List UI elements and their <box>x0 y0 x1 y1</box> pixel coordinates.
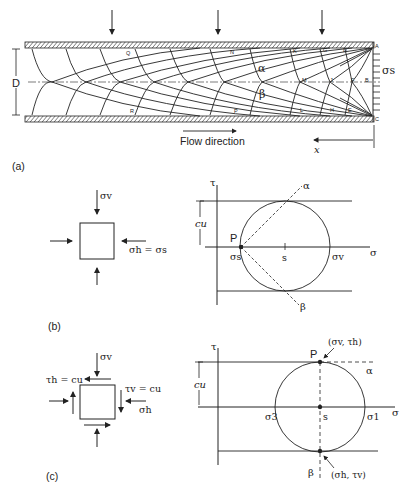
svg-text:M: M <box>302 77 307 83</box>
pole-coords-c: (σv, τh) <box>328 337 362 347</box>
svg-text:H: H <box>330 107 334 113</box>
panel-label-a: (a) <box>12 160 25 172</box>
stress-element-c <box>49 353 146 447</box>
svg-text:Q: Q <box>126 50 131 56</box>
node-labels: Q N K G D A M J F B R P L H E C <box>126 43 379 122</box>
tau-axis-b: τ <box>210 177 216 188</box>
pole-label-c: P <box>310 348 317 360</box>
tau-h-label-c: τh = cu <box>46 374 83 385</box>
tau-v-label-c: τv = cu <box>125 383 161 394</box>
sigma-s-label: σs <box>382 64 396 77</box>
pole-point-c <box>318 360 322 364</box>
center-label-c: s <box>323 411 328 422</box>
mohr-circle-c <box>195 348 395 478</box>
sigma-s-label-b: σs <box>230 251 241 262</box>
x-label: x <box>314 144 320 155</box>
svg-text:D: D <box>343 47 347 53</box>
svg-text:J: J <box>330 77 333 83</box>
alpha-label: α <box>258 62 266 75</box>
sigma-3-label-c: σ3 <box>265 411 278 422</box>
svg-text:C: C <box>375 116 379 122</box>
sigma-v-label-b: σv <box>100 190 112 201</box>
part-a-slip-line-field: D <box>11 10 396 172</box>
sigma-v-point-b: σv <box>332 251 344 262</box>
svg-text:P: P <box>234 108 238 114</box>
bottom-point-c <box>318 449 322 453</box>
sigma-axis-b: σ <box>370 247 377 258</box>
center-point-c <box>318 405 322 409</box>
cu-label-b: cu <box>195 218 207 229</box>
part-c: σv τh = cu τv = cu σh cu τ σ P (σv, τh) <box>46 337 399 482</box>
svg-text:R: R <box>130 108 134 114</box>
mohr-circle-b <box>196 185 370 305</box>
beta-label-b: β <box>300 301 306 312</box>
top-plate <box>25 42 374 48</box>
panel-label-c: (c) <box>46 470 58 482</box>
beta-label: β <box>259 88 265 101</box>
pole-point-b <box>239 245 243 249</box>
bottom-coords-c: (σh, τv) <box>331 470 366 480</box>
tau-axis-c: τ <box>211 341 217 352</box>
svg-text:B: B <box>365 77 369 83</box>
sigma-1-label-c: σ1 <box>367 411 380 422</box>
load-arrows <box>112 10 322 34</box>
alpha-label-c: α <box>366 365 373 376</box>
stress-element-b <box>50 190 146 285</box>
sigma-axis-c: σ <box>392 407 399 418</box>
cu-label-c: cu <box>194 379 206 390</box>
sigma-h-label-b: σh = σs <box>129 244 167 255</box>
sigma-h-label-c: σh <box>139 404 152 415</box>
part-b: σv σh = σs cu τ σ P σs s σv α β (b) <box>48 177 377 332</box>
svg-text:E: E <box>348 107 352 113</box>
bottom-plate <box>25 116 374 122</box>
svg-text:G: G <box>323 47 327 53</box>
svg-text:A: A <box>375 43 379 49</box>
sigma-v-label-c: σv <box>100 351 112 362</box>
alpha-label-b: α <box>303 180 310 191</box>
svg-text:N: N <box>230 49 234 55</box>
center-label-b: s <box>282 252 287 263</box>
svg-text:K: K <box>293 48 297 54</box>
svg-text:L: L <box>300 107 303 113</box>
beta-label-c: β <box>308 467 314 478</box>
pole-label-b: P <box>230 232 237 244</box>
diagram-canvas: D <box>0 0 408 495</box>
flow-direction-label: Flow direction <box>180 135 245 147</box>
d-label: D <box>12 77 20 89</box>
panel-label-b: (b) <box>48 320 61 332</box>
